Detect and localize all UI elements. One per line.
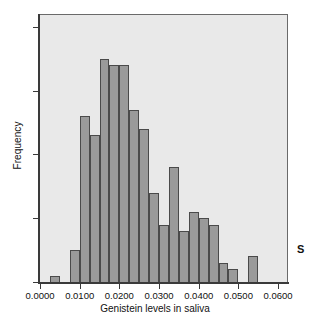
- histogram-bar: [109, 65, 119, 282]
- histogram-bar: [179, 231, 189, 282]
- histogram-bar: [90, 135, 100, 282]
- y-tick-mark: [33, 91, 39, 92]
- x-tick-mark: [159, 283, 160, 289]
- histogram-bars: [40, 15, 287, 282]
- histogram-bar: [80, 116, 90, 282]
- histogram-bar: [169, 167, 179, 282]
- y-tick-mark: [33, 154, 39, 155]
- x-tick-label: 0.0600: [253, 291, 303, 301]
- x-tick-mark: [278, 283, 279, 289]
- plot-area: [40, 14, 288, 282]
- histogram-bar: [248, 256, 258, 282]
- x-tick-mark: [238, 283, 239, 289]
- x-axis-label: Genistein levels in saliva: [0, 303, 310, 314]
- histogram-bar: [228, 269, 238, 282]
- histogram-figure: Frequency 010203040 0.00000.01000.02000.…: [0, 0, 310, 317]
- histogram-bar: [119, 65, 129, 282]
- histogram-bar: [199, 218, 209, 282]
- histogram-bar: [209, 225, 219, 282]
- right-margin-glyph: S: [297, 243, 304, 255]
- x-tick-mark: [40, 283, 41, 289]
- x-tick-mark: [199, 283, 200, 289]
- histogram-bar: [100, 59, 110, 282]
- histogram-bar: [129, 110, 139, 282]
- x-axis-line: [38, 282, 289, 284]
- histogram-bar: [139, 129, 149, 282]
- y-tick-mark: [33, 218, 39, 219]
- y-tick-mark: [33, 27, 39, 28]
- y-axis-label: Frequency: [12, 91, 23, 201]
- histogram-bar: [189, 212, 199, 282]
- histogram-bar: [219, 263, 229, 282]
- x-tick-mark: [119, 283, 120, 289]
- histogram-bar: [70, 250, 80, 282]
- histogram-bar: [159, 225, 169, 282]
- x-tick-mark: [80, 283, 81, 289]
- histogram-bar: [149, 193, 159, 282]
